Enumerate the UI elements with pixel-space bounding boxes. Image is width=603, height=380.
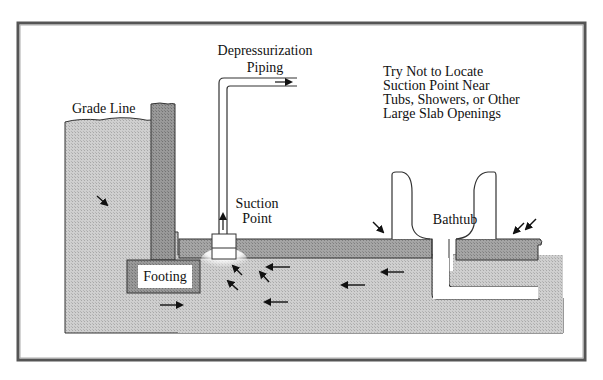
grade-line-label: Grade Line [72,101,135,116]
note-line2: Suction Point Near [383,78,490,93]
suction-point-label-line1: Suction [236,196,279,211]
footing: Footing [127,260,200,293]
radon-mitigation-diagram: Footing Bathtub [0,0,603,380]
suction-point-fitting [212,234,236,259]
slab-main [235,239,432,258]
depressurization-label-line1: Depressurization [218,43,313,58]
bathtub-label: Bathtub [433,212,477,227]
note-line3: Tubs, Showers, or Other [383,92,520,107]
foundation-wall [151,103,175,260]
bathtub [392,172,496,239]
depressurization-label-line2: Piping [247,60,284,75]
slab-right [456,239,542,260]
suction-point-label-line2: Point [242,211,272,226]
note-line1: Try Not to Locate [383,64,483,79]
footing-label: Footing [143,269,187,284]
note-line4: Large Slab Openings [383,106,501,121]
